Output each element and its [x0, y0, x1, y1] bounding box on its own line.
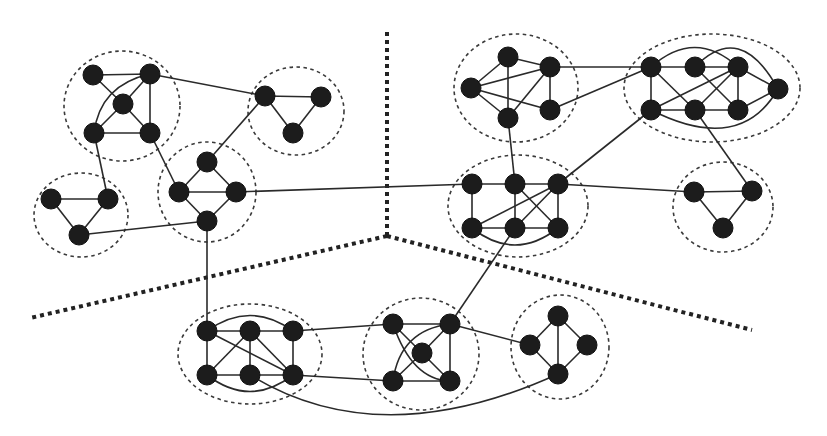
node-G2: [505, 174, 525, 194]
node-G4: [462, 218, 482, 238]
edge-D3-C4: [79, 221, 207, 235]
node-K1: [548, 306, 568, 326]
edge-E5-F1: [550, 67, 651, 110]
node-I3: [283, 321, 303, 341]
node-B2: [311, 87, 331, 107]
node-E4: [498, 108, 518, 128]
node-E2: [540, 57, 560, 77]
node-I6: [283, 365, 303, 385]
partition-line-P3: [387, 236, 752, 330]
node-F7: [728, 100, 748, 120]
node-E3: [461, 78, 481, 98]
network-diagram: [0, 0, 827, 436]
node-F5: [641, 100, 661, 120]
cluster-outline-G: [448, 155, 588, 257]
node-K4: [548, 364, 568, 384]
node-C2: [169, 182, 189, 202]
edge-I6-J4: [293, 375, 393, 381]
edge-B1-C1: [207, 96, 265, 162]
partition-line-P2: [30, 236, 387, 318]
node-H1: [684, 182, 704, 202]
node-A2: [140, 64, 160, 84]
node-E1: [498, 47, 518, 67]
edge-G3-H1: [558, 184, 694, 192]
node-A3: [113, 94, 133, 114]
edge-F5-G3: [558, 110, 651, 184]
node-J2: [440, 314, 460, 334]
node-F3: [728, 57, 748, 77]
node-H2: [742, 181, 762, 201]
curved-edge-F5-F4: [651, 89, 778, 128]
node-I2: [240, 321, 260, 341]
node-D3: [69, 225, 89, 245]
node-A4: [84, 123, 104, 143]
node-J5: [440, 371, 460, 391]
node-J3: [412, 343, 432, 363]
node-K2: [520, 335, 540, 355]
node-D2: [98, 189, 118, 209]
node-G5: [505, 218, 525, 238]
node-J1: [383, 314, 403, 334]
node-G3: [548, 174, 568, 194]
node-A5: [140, 123, 160, 143]
node-E5: [540, 100, 560, 120]
edge-E3-E5: [471, 88, 550, 110]
node-G1: [462, 174, 482, 194]
node-J4: [383, 371, 403, 391]
edge-J2-K2: [450, 324, 530, 345]
node-F1: [641, 57, 661, 77]
node-H3: [713, 218, 733, 238]
node-I4: [197, 365, 217, 385]
node-B3: [283, 123, 303, 143]
node-I1: [197, 321, 217, 341]
node-F4: [768, 79, 788, 99]
node-G6: [548, 218, 568, 238]
node-C1: [197, 152, 217, 172]
edge-G5-J2: [450, 228, 515, 324]
node-F2: [685, 57, 705, 77]
edge-C3-G1: [236, 184, 472, 192]
node-C4: [197, 211, 217, 231]
node-I5: [240, 365, 260, 385]
edge-A2-B1: [150, 74, 265, 96]
node-A1: [83, 65, 103, 85]
node-B1: [255, 86, 275, 106]
node-K3: [577, 335, 597, 355]
node-D1: [41, 189, 61, 209]
node-F6: [685, 100, 705, 120]
nodes: [41, 47, 788, 391]
node-C3: [226, 182, 246, 202]
